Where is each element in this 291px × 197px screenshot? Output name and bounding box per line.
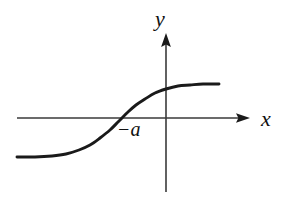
x-intercept-label-minus-a: −a	[117, 119, 141, 139]
math-figure-sigmoid-graph: y x −a	[0, 0, 291, 197]
x-axis-label: x	[261, 108, 271, 130]
graph-canvas	[0, 0, 291, 197]
y-axis-label: y	[155, 8, 165, 30]
